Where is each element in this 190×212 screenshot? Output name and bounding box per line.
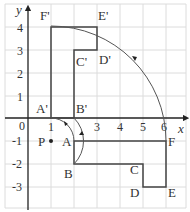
label-f-prime: F' — [40, 8, 50, 23]
label-d: D — [130, 185, 139, 200]
center-point-p — [49, 139, 53, 143]
arrow-icon — [79, 131, 84, 135]
label-c: C — [130, 162, 139, 177]
label-b: B — [64, 166, 73, 181]
svg-text:2: 2 — [17, 67, 23, 81]
svg-text:5: 5 — [140, 120, 146, 134]
label-a-prime: A' — [36, 101, 48, 116]
label-e: E — [168, 185, 176, 200]
label-d-prime: D' — [99, 52, 111, 67]
svg-text:3: 3 — [17, 44, 23, 58]
svg-text:1: 1 — [48, 120, 54, 134]
label-a: A — [62, 134, 72, 149]
svg-text:3: 3 — [94, 120, 100, 134]
coordinate-diagram: y x 4 3 2 1 0 -1 -2 -3 1 3 4 5 6 P A B C… — [0, 0, 190, 212]
label-c-prime: C' — [76, 54, 87, 69]
y-axis-label: y — [14, 2, 22, 17]
arc-f-to-fprime — [51, 26, 166, 141]
svg-text:4: 4 — [17, 21, 23, 35]
svg-text:-2: -2 — [12, 157, 22, 171]
svg-text:0: 0 — [19, 119, 25, 133]
svg-text:-3: -3 — [12, 180, 22, 194]
label-p: P — [38, 134, 45, 149]
svg-text:4: 4 — [117, 120, 123, 134]
axes — [5, 8, 186, 210]
label-b-prime: B' — [76, 101, 87, 116]
x-axis-label: x — [177, 121, 184, 136]
label-f: F — [168, 134, 175, 149]
svg-text:-1: -1 — [12, 134, 22, 148]
label-e-prime: E' — [98, 8, 108, 23]
svg-text:1: 1 — [17, 90, 23, 104]
